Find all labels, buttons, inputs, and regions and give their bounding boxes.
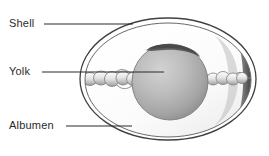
label-shell: Shell — [9, 18, 34, 29]
label-yolk: Yolk — [9, 66, 30, 77]
label-albumen: Albumen — [9, 120, 54, 131]
egg-illustration — [0, 0, 269, 156]
egg-anatomy-diagram: Shell Yolk Albumen — [0, 0, 269, 156]
yolk-shape — [132, 44, 208, 120]
chalaza-right — [206, 72, 250, 86]
